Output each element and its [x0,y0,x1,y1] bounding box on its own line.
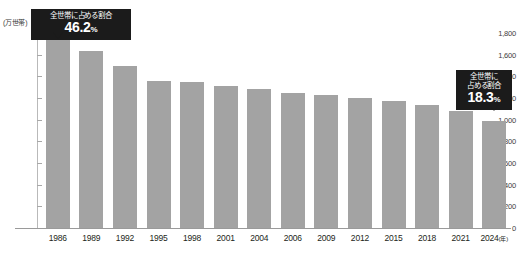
annotation-callout-2024: 全世帯に 占める割合 18.3% [456,70,512,110]
bar-2001 [214,86,238,228]
x-axis-label-2024: 2024(年) [468,233,520,243]
bar-2012 [348,98,372,228]
annotation-2024-pointer-icon [489,104,499,111]
bar-1989 [79,51,103,228]
bar-2021 [449,111,473,228]
bar-2009 [314,95,338,228]
annotation-1986-value: 46.2% [36,20,126,37]
annotation-2024-title-line1: 全世帯に [461,72,507,81]
bar-1986 [46,40,70,229]
bar-2015 [382,101,406,228]
bar-1998 [180,82,204,228]
annotation-1986-pointer-icon [53,32,63,39]
bar-1992 [113,66,137,229]
annotation-2024-value: 18.3% [461,90,507,107]
bar-1995 [147,81,171,228]
bar-2006 [281,93,305,228]
bar-2018 [415,105,439,229]
bar-2024 [482,121,506,228]
bar-2004 [247,89,271,228]
annotation-callout-1986: 全世帯に占める割合 46.2% [31,9,131,40]
x-axis-unit-suffix: (年) [499,236,508,242]
